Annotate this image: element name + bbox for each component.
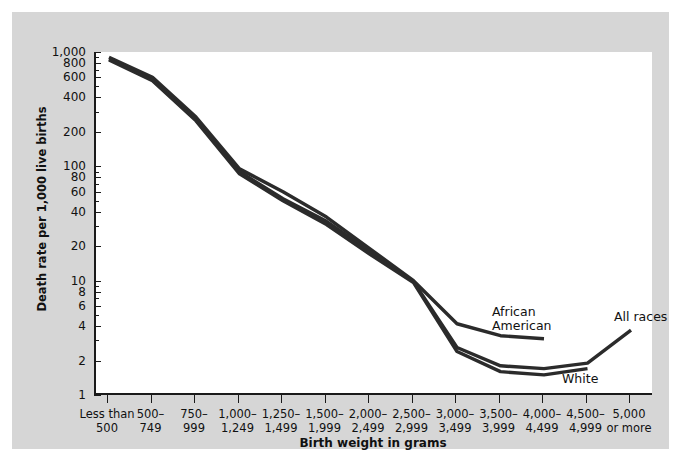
y-axis-minor-tick-mark: [94, 286, 99, 287]
x-axis-title: Birth weight in grams: [94, 436, 652, 450]
x-axis-tick-mark: [586, 395, 587, 403]
chart-page: 1,000800600400200100806040201086421 Less…: [0, 0, 681, 461]
x-axis-tick-mark: [455, 395, 456, 403]
y-axis-tick-mark: [94, 192, 101, 193]
y-axis-minor-tick-mark: [94, 86, 99, 87]
series-line: [109, 59, 631, 369]
y-axis-title-wrapper: Death rate per 1,000 live births: [42, 52, 64, 395]
y-axis-tick-mark: [94, 97, 101, 98]
y-axis-minor-tick-mark: [94, 184, 99, 185]
x-axis-tick-mark: [238, 395, 239, 403]
figure-panel: 1,000800600400200100806040201086421 Less…: [12, 12, 669, 449]
y-axis-tick-mark: [94, 52, 101, 53]
x-axis-tick-mark: [281, 395, 282, 403]
x-axis-tick-label: 5,000or more: [591, 407, 667, 435]
y-axis-tick-mark: [94, 246, 101, 247]
y-axis-title: Death rate per 1,000 live births: [35, 29, 49, 389]
x-axis-tick-mark: [151, 395, 152, 403]
y-axis-tick-mark: [94, 292, 101, 293]
x-axis-tick-mark: [629, 395, 630, 403]
series-annotation-line: White: [562, 372, 598, 386]
x-axis-tick-mark: [368, 395, 369, 403]
y-axis-tick-mark: [94, 63, 101, 64]
series-annotation-all-races: All races: [614, 310, 667, 324]
x-axis-tick-label-line: or more: [591, 421, 667, 435]
series-annotation-african-american: AfricanAmerican: [492, 305, 552, 333]
y-axis-tick-mark: [94, 281, 101, 282]
y-axis-minor-tick-mark: [94, 226, 99, 227]
plot-area: [94, 52, 652, 395]
y-axis-tick-mark: [94, 166, 101, 167]
y-axis-tick-mark: [94, 361, 101, 362]
y-axis-minor-tick-mark: [94, 57, 99, 58]
series-annotation-white: White: [562, 372, 598, 386]
x-axis-tick-mark: [325, 395, 326, 403]
y-axis-tick-mark: [94, 132, 101, 133]
x-axis-tick-mark: [542, 395, 543, 403]
y-axis-tick-mark: [94, 212, 101, 213]
y-axis-minor-tick-mark: [94, 70, 99, 71]
y-axis-minor-tick-mark: [94, 201, 99, 202]
x-axis-tick-mark: [194, 395, 195, 403]
y-axis-minor-tick-mark: [94, 340, 99, 341]
y-axis-tick-mark: [94, 77, 101, 78]
y-axis-minor-tick-mark: [94, 172, 99, 173]
y-axis-minor-tick-mark: [94, 298, 99, 299]
series-annotation-line: American: [492, 319, 552, 333]
line-chart-svg: [96, 52, 654, 395]
y-axis-minor-tick-mark: [94, 112, 99, 113]
y-axis-minor-tick-mark: [94, 315, 99, 316]
series-annotation-line: All races: [614, 310, 667, 324]
y-axis-tick-mark: [94, 395, 101, 396]
y-axis-tick-mark: [94, 177, 101, 178]
x-axis-tick-mark: [499, 395, 500, 403]
y-axis-tick-mark: [94, 326, 101, 327]
x-axis-tick-mark: [412, 395, 413, 403]
x-axis-tick-mark: [107, 395, 108, 403]
x-axis-tick-label-line: 5,000: [591, 407, 667, 421]
y-axis-tick-mark: [94, 306, 101, 307]
series-annotation-line: African: [492, 305, 552, 319]
